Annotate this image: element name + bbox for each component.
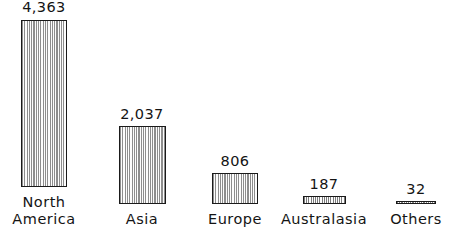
bar-value-label: 806 bbox=[221, 154, 250, 169]
bar-value-label: 32 bbox=[406, 182, 425, 197]
bar-rect[interactable] bbox=[212, 173, 258, 204]
bar-chart: 4,363 North America 2,037 Asia 806 Europ… bbox=[0, 0, 462, 229]
bar-rect[interactable] bbox=[396, 201, 436, 204]
bar-group-north-america[interactable]: 4,363 North America bbox=[4, 0, 84, 229]
bar-value-label: 187 bbox=[310, 177, 339, 192]
bar-rect[interactable] bbox=[21, 20, 67, 187]
bar-category-label: Others bbox=[390, 211, 442, 229]
bar-value-label: 4,363 bbox=[22, 0, 66, 15]
plot-area: 4,363 North America 2,037 Asia 806 Europ… bbox=[0, 0, 462, 229]
bar-category-label: Europe bbox=[208, 211, 262, 229]
bar-value-label: 2,037 bbox=[120, 107, 164, 122]
bar-category-label: North America bbox=[12, 194, 75, 229]
bar-category-label: Asia bbox=[126, 211, 158, 229]
bar-group-australasia[interactable]: 187 Australasia bbox=[284, 177, 364, 229]
bar-group-asia[interactable]: 2,037 Asia bbox=[102, 107, 182, 229]
bar-rect[interactable] bbox=[303, 196, 346, 204]
bar-group-others[interactable]: 32 Others bbox=[376, 182, 456, 229]
bar-group-europe[interactable]: 806 Europe bbox=[195, 154, 275, 229]
bar-category-label: Australasia bbox=[281, 211, 367, 229]
bar-rect[interactable] bbox=[119, 126, 166, 204]
